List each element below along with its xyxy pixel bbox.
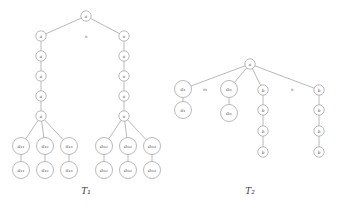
tree-node-chain[interactable]: a <box>36 71 46 81</box>
tree-node-b-chain-right[interactable]: b <box>314 85 324 95</box>
node-label: b <box>262 88 265 93</box>
node-label: a₁₁ <box>18 143 25 149</box>
nodes-layer: aaaaaaa₁₁a₁₁a₁₂a₁₂a₁₃a₁₃aaaaaaₘ₁aₘ₁aₘ₂aₘ… <box>13 11 325 179</box>
tree-node-chain[interactable]: a <box>36 51 46 61</box>
tree-node-leaf-top[interactable]: aₘ₂ <box>120 138 137 155</box>
node-label: b <box>262 129 265 134</box>
node-label: aₘ <box>226 110 232 116</box>
node-label: aₘ₃ <box>148 167 156 173</box>
edge-fanout-left <box>26 120 38 139</box>
node-label: b <box>318 108 321 113</box>
tree-node-chain[interactable]: a <box>119 71 129 81</box>
tree-node-chain[interactable]: a <box>119 111 129 121</box>
edge-fanout-right <box>109 120 121 139</box>
tree-caption-t1: T₁ <box>81 186 91 196</box>
edge-fanout-right <box>125 121 127 137</box>
tree-node-root[interactable]: a <box>81 11 91 21</box>
tree-node-a1[interactable]: a₁ <box>175 81 192 98</box>
tree-node-am[interactable]: aₘ <box>221 81 238 98</box>
tree-caption-t2: T₂ <box>245 186 255 196</box>
edge-label: n <box>85 34 88 39</box>
node-label: aₘ₂ <box>124 167 132 173</box>
tree-node-b-chain-left[interactable]: b <box>258 85 268 95</box>
tree-node-am[interactable]: aₘ <box>221 105 238 122</box>
tree-node-a1[interactable]: a₁ <box>175 102 192 119</box>
tree-node-leaf-bottom[interactable]: a₁₁ <box>13 162 30 179</box>
edge-fanout-left <box>42 121 44 137</box>
node-label: b <box>262 108 265 113</box>
edge-fanout-left <box>45 120 64 140</box>
figure-canvas: aaaaaaa₁₁a₁₁a₁₂a₁₂a₁₃a₁₃aaaaaaₘ₁aₘ₁aₘ₂aₘ… <box>0 0 338 215</box>
tree-node-leaf-top[interactable]: aₘ₃ <box>144 138 161 155</box>
tree-node-b-chain-left[interactable]: b <box>258 126 268 136</box>
tree-node-chain[interactable]: a <box>119 31 129 41</box>
edge-root-to-left <box>46 18 81 34</box>
node-label: b <box>318 88 321 93</box>
captions-layer: T₁T₂ <box>81 186 255 196</box>
tree-node-b-chain-left[interactable]: b <box>258 147 268 157</box>
tree-diagram: aaaaaaa₁₁a₁₁a₁₂a₁₂a₁₃a₁₃aaaaaaₘ₁aₘ₁aₘ₂aₘ… <box>0 0 338 215</box>
tree-node-leaf-top[interactable]: a₁₂ <box>37 138 54 155</box>
tree-node-leaf-bottom[interactable]: aₘ₂ <box>120 162 137 179</box>
edge-label: m <box>203 87 207 92</box>
tree-node-chain[interactable]: a <box>36 91 46 101</box>
node-label: a₁₃ <box>66 143 73 149</box>
tree-node-leaf-top[interactable]: aₘ₁ <box>96 138 113 155</box>
edge-root-to-am <box>234 68 246 83</box>
tree-node-leaf-bottom[interactable]: aₘ₁ <box>96 162 113 179</box>
edge-label: n <box>291 87 294 92</box>
node-label: aₘ₁ <box>100 143 108 149</box>
tree-node-b-chain-right[interactable]: b <box>314 105 324 115</box>
tree-node-leaf-top[interactable]: a₁₃ <box>61 138 78 155</box>
tree-node-b-chain-right[interactable]: b <box>314 126 324 136</box>
tree-node-chain[interactable]: a <box>119 51 129 61</box>
tree-node-b-chain-left[interactable]: b <box>258 105 268 115</box>
node-label: a₁ <box>181 86 186 92</box>
edge-root-to-right <box>91 18 120 33</box>
node-label: aₘ₃ <box>148 143 156 149</box>
tree-node-chain[interactable]: a <box>36 31 46 41</box>
edge-root-to-a1 <box>191 66 245 86</box>
tree-node-chain[interactable]: a <box>36 111 46 121</box>
node-label: a₁₂ <box>42 167 49 173</box>
tree-node-b-chain-right[interactable]: b <box>314 147 324 157</box>
node-label: a₁₃ <box>66 167 73 173</box>
node-label: b <box>262 150 265 155</box>
tree-node-root[interactable]: a <box>245 59 255 69</box>
tree-node-leaf-bottom[interactable]: a₁₃ <box>61 162 78 179</box>
tree-node-leaf-top[interactable]: a₁₁ <box>13 138 30 155</box>
node-label: b <box>318 129 321 134</box>
node-label: a₁₁ <box>18 167 25 173</box>
node-label: aₘ₁ <box>100 167 108 173</box>
tree-node-chain[interactable]: a <box>119 91 129 101</box>
node-label: a₁₂ <box>42 143 49 149</box>
node-label: b <box>318 150 321 155</box>
tree-node-leaf-bottom[interactable]: aₘ₃ <box>144 162 161 179</box>
edge-root-to-b-chain-left <box>252 69 260 86</box>
node-label: aₘ₂ <box>124 143 132 149</box>
node-label: aₘ <box>226 86 232 92</box>
tree-node-leaf-bottom[interactable]: a₁₂ <box>37 162 54 179</box>
edge-fanout-right <box>128 120 147 140</box>
node-label: a₁ <box>181 107 186 113</box>
